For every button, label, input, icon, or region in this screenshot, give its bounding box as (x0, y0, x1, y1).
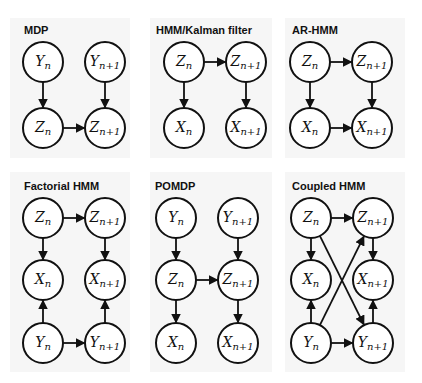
node-pomdp-Zn1: Zn+1 (218, 260, 258, 300)
node-mdp-Zn: Zn (23, 108, 63, 148)
node-coupled-hmm-Xn1: Xn+1 (353, 260, 393, 300)
nodes-layer: YnYn+1ZnZn+1ZnZn+1XnXn+1ZnZn+1XnXn+1ZnZn… (23, 42, 393, 363)
node-pomdp-Yn1: Yn+1 (218, 198, 258, 238)
node-ar-hmm-Xn1: Xn+1 (352, 108, 392, 148)
node-ar-hmm-Xn: Xn (290, 108, 330, 148)
node-hmm-kalman-filter-Xn: Xn (164, 108, 204, 148)
node-mdp-Yn: Yn (23, 42, 63, 82)
node-factorial-hmm-Xn: Xn (23, 260, 63, 300)
node-hmm-kalman-filter-Zn1: Zn+1 (226, 42, 266, 82)
node-factorial-hmm-Xn1: Xn+1 (85, 260, 125, 300)
node-mdp-Zn1: Zn+1 (85, 108, 125, 148)
node-pomdp-Xn1: Xn+1 (218, 323, 258, 363)
node-coupled-hmm-Zn1: Zn+1 (353, 198, 393, 238)
node-coupled-hmm-Yn1: Yn+1 (353, 323, 393, 363)
node-ar-hmm-Zn: Zn (290, 42, 330, 82)
node-pomdp-Zn: Zn (156, 260, 196, 300)
node-factorial-hmm-Zn: Zn (23, 198, 63, 238)
node-factorial-hmm-Yn1: Yn+1 (85, 323, 125, 363)
node-factorial-hmm-Yn: Yn (23, 323, 63, 363)
node-coupled-hmm-Zn: Zn (291, 198, 331, 238)
node-coupled-hmm-Yn: Yn (291, 323, 331, 363)
graphical-models-canvas: YnYn+1ZnZn+1ZnZn+1XnXn+1ZnZn+1XnXn+1ZnZn… (0, 0, 422, 383)
node-coupled-hmm-Xn: Xn (291, 260, 331, 300)
node-ar-hmm-Zn1: Zn+1 (352, 42, 392, 82)
node-hmm-kalman-filter-Zn: Zn (164, 42, 204, 82)
node-mdp-Yn1: Yn+1 (85, 42, 125, 82)
node-hmm-kalman-filter-Xn1: Xn+1 (226, 108, 266, 148)
node-pomdp-Yn: Yn (156, 198, 196, 238)
node-factorial-hmm-Zn1: Zn+1 (85, 198, 125, 238)
node-pomdp-Xn: Xn (156, 323, 196, 363)
